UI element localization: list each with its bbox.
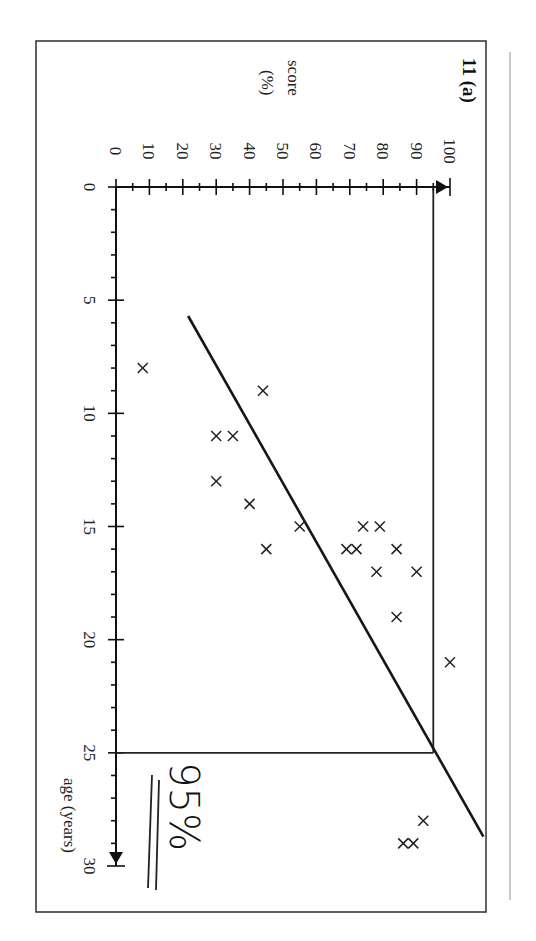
data-point-cross-icon [295,522,305,532]
figure-frame [36,41,486,912]
data-point-cross-icon [351,544,361,554]
x-tick-label: 25 [80,744,99,761]
trend-line [188,316,483,837]
data-point-cross-icon [258,386,268,396]
y-axis-label-line1: score [284,60,303,96]
y-tick-label: 40 [240,143,259,160]
y-axis-arrow-icon [436,180,448,194]
data-point-cross-icon [372,567,382,577]
y-tick-label: 30 [206,143,225,160]
y-tick-label: 0 [106,147,125,156]
y-tick-label: 60 [306,143,325,160]
data-point-cross-icon [392,612,402,622]
y-tick-label: 20 [173,143,192,160]
y-tick-label: 100 [440,138,459,164]
data-point-cross-icon [392,544,402,554]
y-tick-label: 90 [407,143,426,160]
data-point-cross-icon [445,657,455,667]
axis-tick-labels: 0102030405060708090100051015202530 [80,138,459,874]
y-tick-label: 10 [139,143,158,160]
data-point-cross-icon [398,838,408,848]
data-point-cross-icon [211,431,221,441]
x-tick-label: 20 [80,631,99,648]
data-point-cross-icon [341,544,351,554]
x-tick-label: 10 [80,405,99,422]
handwritten-answer: 95% [161,762,207,851]
x-tick-label: 5 [80,296,99,305]
data-point-cross-icon [418,816,428,826]
data-point-cross-icon [408,838,418,848]
data-point-cross-icon [138,363,148,373]
data-point-cross-icon [358,522,368,532]
data-point-cross-icon [412,567,422,577]
y-tick-label: 80 [373,143,392,160]
y-axis-label-line2: (%) [258,70,277,95]
answer-underline-2 [156,780,159,890]
data-point-cross-icon [375,522,385,532]
answer-underline-1 [148,775,152,888]
x-tick-label: 30 [80,858,99,875]
x-tick-label: 0 [80,183,99,192]
x-tick-label: 15 [80,518,99,535]
line-of-best-fit [188,316,483,837]
data-point-cross-icon [261,544,271,554]
data-point-cross-icon [211,476,221,486]
axes [107,178,450,866]
question-label: 11 (a) [458,58,480,103]
data-point-cross-icon [228,431,238,441]
data-point-cross-icon [245,499,255,509]
y-tick-label: 70 [340,143,359,160]
y-tick-label: 50 [273,143,292,160]
x-axis-label: age (years) [60,778,79,853]
x-axis-arrow-icon [109,852,123,864]
axis-ticks [108,179,433,843]
scatter-plot-figure: 11 (a) score (%) age (years) 01020304050… [0,0,536,941]
